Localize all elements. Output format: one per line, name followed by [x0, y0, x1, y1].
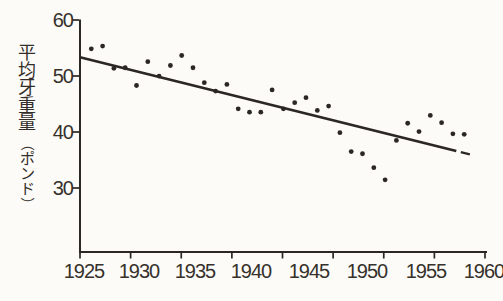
data-point [100, 44, 105, 49]
data-point [247, 110, 252, 115]
data-point [112, 66, 117, 71]
data-point [360, 151, 365, 156]
data-point [292, 100, 297, 105]
data-point [157, 74, 162, 79]
data-point [236, 106, 241, 111]
y-tick-label-30: 30 [33, 178, 73, 198]
data-point [417, 129, 422, 134]
data-point [191, 65, 196, 70]
data-point [213, 89, 218, 94]
data-point [383, 177, 388, 182]
data-point [304, 95, 309, 100]
data-point [202, 80, 207, 85]
scatter-plot-figure: 平 均 牙 重 量 （ ポ ン ド ） 60 50 40 30 1925 193… [0, 0, 503, 301]
x-tick-label-1940: 1940 [231, 261, 272, 281]
y-tick-label-50: 50 [33, 66, 73, 86]
data-point [439, 120, 444, 125]
x-tick-label-1930: 1930 [119, 261, 160, 281]
data-point [225, 82, 230, 87]
data-point [89, 46, 94, 51]
data-point [428, 113, 433, 118]
x-tick-label-1935: 1935 [175, 261, 216, 281]
data-point [338, 130, 343, 135]
y-tick-label-40: 40 [33, 122, 73, 142]
data-point [168, 63, 173, 68]
data-point [349, 149, 354, 154]
x-tick-label-1955: 1955 [406, 261, 447, 281]
data-point [326, 104, 331, 109]
y-tick-label-60: 60 [33, 10, 73, 30]
data-point [462, 132, 467, 137]
x-tick-label-1925: 1925 [64, 261, 105, 281]
x-tick-label-1945: 1945 [289, 261, 330, 281]
data-point [258, 110, 263, 115]
data-point [134, 83, 139, 88]
data-point [394, 138, 399, 143]
data-point [179, 53, 184, 58]
data-point [405, 121, 410, 126]
data-point [371, 165, 376, 170]
x-tick-label-1960: 1960 [464, 261, 503, 281]
plot-canvas [0, 0, 503, 301]
data-point [451, 131, 456, 136]
x-tick-label-1950: 1950 [347, 261, 388, 281]
data-point [123, 65, 128, 70]
data-point [145, 59, 150, 64]
data-point [270, 88, 275, 93]
data-point [281, 106, 286, 111]
data-point [315, 108, 320, 113]
